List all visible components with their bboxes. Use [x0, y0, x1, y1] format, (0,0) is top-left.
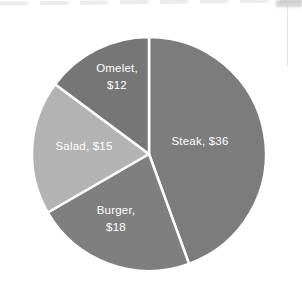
chart-canvas: Steak, $36Burger,$18Salad, $15Omelet,$12 [0, 0, 302, 304]
pie-chart: Steak, $36Burger,$18Salad, $15Omelet,$12 [0, 0, 302, 304]
pie-label-salad: Salad, $15 [56, 140, 113, 152]
pie-label-steak: Steak, $36 [172, 135, 229, 147]
